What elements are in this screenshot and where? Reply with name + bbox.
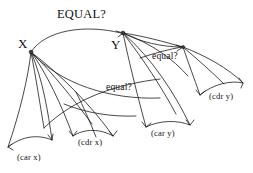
leaf-label-cdr-x: (cdr x): [78, 138, 102, 147]
equal-recursion-diagram: EQUAL? X Y equal? equal? (car x) (cdr x)…: [0, 0, 253, 173]
leaf-label-cdr-y: (cdr y): [209, 92, 233, 101]
edge-x-to-y: [31, 29, 121, 52]
edge-label-equal-upper: equal?: [152, 52, 178, 62]
edge-equal-lower: [31, 52, 160, 128]
figure-title: EQUAL?: [57, 8, 106, 21]
sail-cdr-y: [183, 47, 243, 95]
crossing-strokes: [64, 92, 136, 137]
node-label-x: X: [18, 37, 28, 50]
edge-label-equal-lower: equal?: [106, 83, 132, 93]
leaf-label-car-x: (car x): [17, 153, 41, 162]
node-label-y: Y: [111, 38, 121, 51]
leaf-label-car-y: (car y): [151, 129, 175, 138]
